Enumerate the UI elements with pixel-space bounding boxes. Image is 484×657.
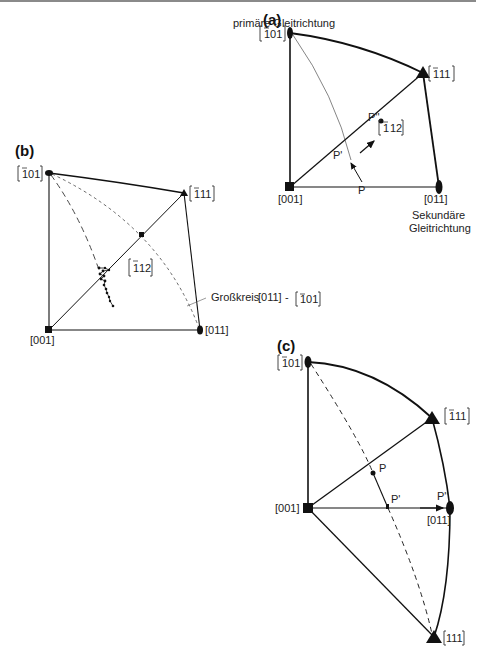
primary-slip-direction-label: primäre Gleitrichtung [233, 17, 335, 29]
pole-label-111: 111 [444, 631, 464, 645]
pole-marker-101 [45, 170, 53, 176]
edge-111-011 [423, 73, 439, 187]
panel-c: (c) 101 1 11 [001] [275, 337, 469, 645]
secondary-slip-label-2: Gleitrichtung [409, 222, 471, 234]
pole-marker-112 [139, 232, 144, 237]
edge-111-011 [184, 193, 200, 330]
dashed-great-circle-lower [388, 508, 432, 634]
pole-marker-011 [446, 501, 454, 515]
great-circle-label: Großkreis [011] - 101 [211, 291, 320, 306]
panel-b: (b) 101 [15, 142, 320, 346]
rotation-path-P-P1 [373, 473, 388, 508]
pole-marker-111 [416, 66, 430, 78]
pole-label-011: [011] [205, 324, 229, 336]
pole-label-112: 1 12 [379, 120, 403, 135]
panel-a: (a) primäre Gleitrichtung 101 [233, 11, 471, 234]
svg-text:101: 101 [264, 28, 282, 40]
svg-text:1: 1 [383, 122, 389, 134]
svg-text:-: - [285, 291, 289, 303]
panel-c-label: (c) [277, 337, 295, 354]
pole-label-101: 101 [278, 355, 302, 370]
point-P2-label: P'' [437, 490, 449, 502]
pole-marker-001 [285, 182, 294, 191]
rotation-arrow-P [351, 163, 362, 182]
edge-001-111 [308, 508, 434, 637]
pole-marker-101 [305, 356, 312, 368]
point-P1-marker [386, 504, 389, 509]
diagonal-001-111 [49, 193, 184, 330]
svg-text:11: 11 [439, 68, 450, 80]
pole-label-101: 101 [18, 166, 42, 181]
dashed-great-circle [51, 175, 99, 270]
pole-label-011: [011] [427, 514, 451, 526]
svg-text:101: 101 [282, 357, 300, 369]
edge-101-111 [290, 33, 423, 73]
pole-label-001: [001] [275, 502, 299, 514]
panel-b-label: (b) [15, 142, 34, 159]
pole-label-112: 1 12 [129, 259, 152, 276]
pole-marker-101 [287, 27, 293, 39]
svg-text:Großkreis: Großkreis [211, 291, 260, 303]
svg-text:11: 11 [455, 410, 466, 422]
pole-label-001: [001] [30, 334, 54, 346]
pole-label-111: 1 11 [429, 66, 454, 81]
pole-label-111: 1 11 [190, 186, 214, 201]
pole-marker-011 [436, 180, 443, 194]
point-P1-label: P' [391, 493, 400, 505]
point-P-marker [371, 471, 376, 476]
pole-marker-001 [45, 326, 52, 333]
svg-text:101: 101 [22, 168, 40, 180]
svg-text:111: 111 [446, 632, 463, 644]
edge-101-111 [308, 362, 432, 418]
pole-marker-011 [197, 326, 203, 335]
svg-text:101: 101 [300, 293, 318, 305]
great-circle-arc [293, 35, 351, 160]
pole-marker-001 [303, 503, 313, 513]
secondary-slip-label-1: Sekundäre [412, 209, 465, 221]
point-P-label: P [379, 462, 386, 474]
pole-label-011: [011] [424, 193, 448, 205]
svg-text:11: 11 [200, 188, 211, 200]
point-P1-label: P' [333, 149, 342, 161]
svg-text:[011]: [011] [258, 291, 282, 303]
stereographic-triangles-figure: (a) primäre Gleitrichtung 101 [0, 0, 484, 657]
pole-label-001: [001] [278, 193, 302, 205]
point-P-label: P [358, 184, 365, 196]
point-P2-label: P'' [368, 111, 380, 123]
edge-011-111 [434, 508, 450, 637]
dashed-great-circle-upper [311, 364, 373, 473]
svg-text:12: 12 [390, 122, 402, 134]
svg-text:12: 12 [139, 262, 151, 274]
rotation-arrow-P1-P2 [360, 141, 374, 153]
pole-label-m111: 1 11 [445, 408, 469, 424]
diagonal-001-m111 [308, 418, 432, 508]
pole-label-101: 101 [260, 26, 285, 41]
